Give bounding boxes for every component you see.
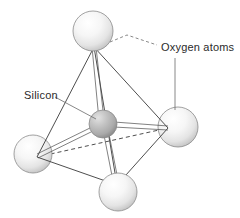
silicon-center-sphere [89,110,117,138]
silicon-oxygen-tetrahedron-figure: Oxygen atoms Silicon [0,0,240,218]
label-leaders [55,35,175,119]
atom-oxygen-top [73,11,113,51]
atom-oxygen-bottom [99,173,137,211]
bond-si-top-b [96,47,104,120]
oxygen-top-sphere [73,11,113,51]
oxygen-atoms-label: Oxygen atoms [161,41,235,53]
atom-silicon-center [89,110,117,138]
edge-top-left [37,47,94,157]
oxygen-leader-dashed-line [110,35,157,45]
oxygen-bottom-sphere [99,173,137,211]
atom-oxygen-right [158,107,198,147]
silicon-label: Silicon [24,89,58,101]
silicon-leader-line [55,97,96,119]
oxygen-right-sphere [158,107,198,147]
diagram-canvas: Oxygen atoms Silicon [0,0,240,218]
